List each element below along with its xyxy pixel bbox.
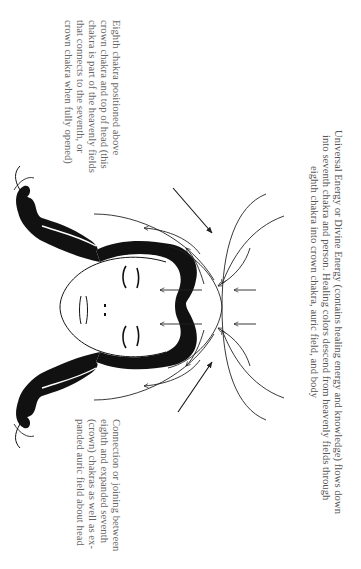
eighth-chakra-field-icon <box>218 194 284 420</box>
face-outline-icon <box>60 257 166 357</box>
energy-flow-arrows-icon <box>160 290 256 324</box>
chakra-illustration <box>0 0 361 569</box>
